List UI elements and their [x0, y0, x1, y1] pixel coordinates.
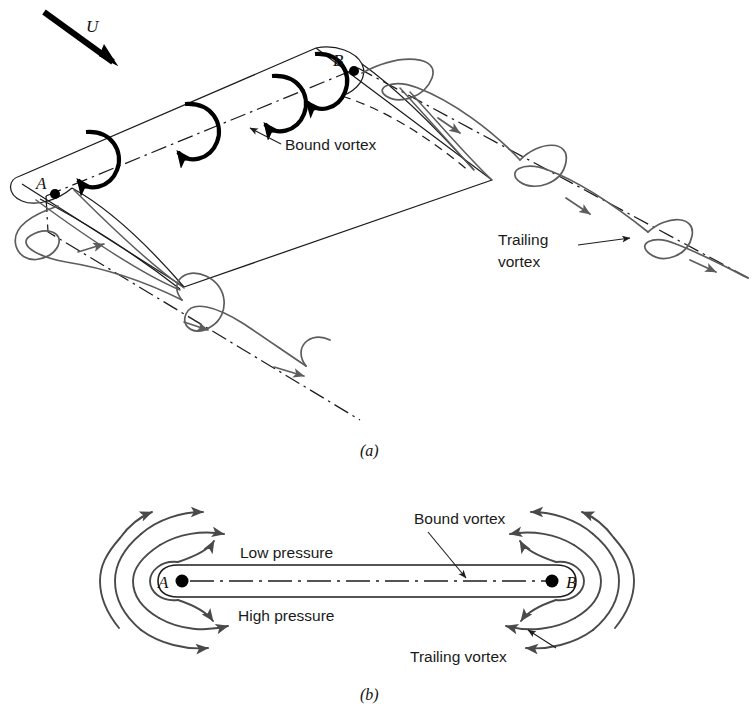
figure-root: U	[0, 0, 752, 712]
canvas-background	[0, 0, 752, 712]
panel-b-caption: (b)	[360, 686, 379, 704]
freestream-label: U	[86, 17, 100, 36]
bound-vortex-label-b: Bound vortex	[414, 510, 506, 527]
high-pressure-label: High pressure	[238, 607, 335, 624]
panel-a-caption: (a)	[360, 442, 379, 460]
point-a-label-b: A	[157, 573, 169, 592]
trailing-vortex-label-b: Trailing vortex	[410, 648, 507, 665]
low-pressure-label: Low pressure	[240, 544, 333, 561]
vortex-system-diagram: U	[0, 0, 752, 712]
trailing-vortex-label-a-line1: Trailing	[498, 231, 548, 248]
bound-vortex-label: Bound vortex	[285, 136, 377, 153]
point-b-label: B	[333, 51, 344, 70]
point-a-label: A	[35, 174, 47, 193]
point-b-label-b: B	[566, 573, 577, 592]
trailing-vortex-label-a-line2: vortex	[498, 253, 540, 270]
